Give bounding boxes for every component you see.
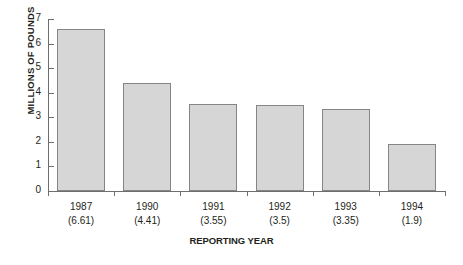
y-axis-tick-label: 0	[35, 184, 41, 196]
y-axis-tick-mark	[49, 117, 54, 118]
x-axis-title: REPORTING YEAR	[0, 235, 463, 246]
y-axis-tick: 2	[48, 142, 54, 143]
x-axis-tick-mark	[379, 191, 380, 196]
category-year: 1990	[114, 200, 180, 214]
y-axis-tick-label: 3	[35, 110, 41, 122]
bar-chart: MILLIONS OF POUNDS 01234567 1987(6.61)19…	[0, 0, 463, 265]
category-year: 1992	[247, 200, 313, 214]
category-value: (4.41)	[114, 214, 180, 228]
x-axis-tick-mark	[313, 191, 314, 196]
x-axis-category-label: 1987(6.61)	[48, 200, 114, 228]
bar	[256, 105, 304, 191]
y-axis-tick-label: 5	[35, 61, 41, 73]
y-axis-tick: 6	[48, 44, 54, 45]
category-year: 1991	[180, 200, 246, 214]
y-axis-tick: 1	[48, 166, 54, 167]
x-axis-category-label: 1991(3.55)	[180, 200, 246, 228]
x-axis-tick-mark	[445, 191, 446, 196]
y-axis-tick-label: 1	[35, 159, 41, 171]
category-value: (3.55)	[180, 214, 246, 228]
y-axis-tick-mark	[49, 68, 54, 69]
y-axis-tick-label: 7	[35, 12, 41, 24]
y-axis-tick-mark	[49, 142, 54, 143]
y-axis-tick-mark	[49, 166, 54, 167]
category-value: (6.61)	[48, 214, 114, 228]
category-year: 1994	[379, 200, 445, 214]
category-year: 1987	[48, 200, 114, 214]
x-axis-category-label: 1993(3.35)	[313, 200, 379, 228]
x-axis-category-label: 1992(3.5)	[247, 200, 313, 228]
y-axis-tick-label: 6	[35, 37, 41, 49]
category-value: (3.5)	[247, 214, 313, 228]
x-axis-tick-mark	[247, 191, 248, 196]
y-axis-tick: 7	[48, 19, 54, 20]
x-axis-category-label: 1994(1.9)	[379, 200, 445, 228]
bar	[57, 29, 105, 191]
y-axis-tick-label: 4	[35, 86, 41, 98]
y-axis-line	[48, 19, 49, 191]
x-axis-tick-mark	[48, 191, 49, 196]
y-axis-tick-mark	[49, 19, 54, 20]
category-value: (1.9)	[379, 214, 445, 228]
y-axis-tick-mark	[49, 93, 54, 94]
y-axis-tick-mark	[49, 191, 54, 192]
y-axis-tick: 5	[48, 68, 54, 69]
category-value: (3.35)	[313, 214, 379, 228]
plot-area: 01234567	[48, 19, 445, 191]
category-year: 1993	[313, 200, 379, 214]
bar	[322, 109, 370, 191]
x-axis-category-label: 1990(4.41)	[114, 200, 180, 228]
y-axis-tick-label: 2	[35, 135, 41, 147]
bar	[189, 104, 237, 191]
y-axis-tick: 3	[48, 117, 54, 118]
bar	[388, 144, 436, 191]
bar	[123, 83, 171, 191]
y-axis-tick: 4	[48, 93, 54, 94]
x-axis-tick-mark	[180, 191, 181, 196]
y-axis-tick-mark	[49, 44, 54, 45]
y-axis-title: MILLIONS OF POUNDS	[25, 0, 36, 141]
x-axis-tick-mark	[114, 191, 115, 196]
